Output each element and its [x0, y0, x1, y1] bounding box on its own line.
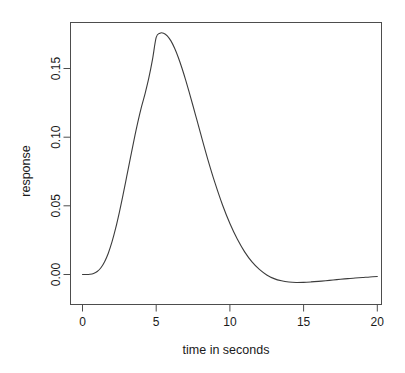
x-axis-title: time in seconds — [183, 343, 270, 357]
chart-figure: 0.00 0.05 0.10 0.15 response 0 5 10 15 2… — [0, 0, 405, 373]
response-curve-chart: 0.00 0.05 0.10 0.15 response 0 5 10 15 2… — [0, 0, 405, 373]
x-tick-label-0: 0 — [79, 315, 86, 329]
x-tick-label-3: 15 — [297, 315, 311, 329]
y-tick-label-1: 0.05 — [49, 194, 63, 218]
x-tick-label-1: 5 — [153, 315, 160, 329]
x-tick-label-4: 20 — [371, 315, 385, 329]
chart-background — [0, 0, 405, 373]
y-tick-label-2: 0.10 — [49, 125, 63, 149]
y-tick-label-3: 0.15 — [49, 56, 63, 80]
y-axis-title: response — [19, 145, 33, 196]
x-tick-label-2: 10 — [223, 315, 237, 329]
y-tick-label-0: 0.00 — [49, 262, 63, 286]
